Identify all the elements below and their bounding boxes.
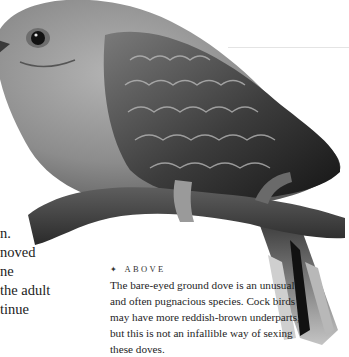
caption-line: The bare-eyed ground dove is an unusual (110, 277, 345, 293)
caption-body: The bare-eyed ground dove is an unusual … (110, 277, 345, 357)
caption-line: may have more reddish-brown underparts, (110, 309, 345, 325)
caption-label: ✦ ABOVE (110, 264, 345, 274)
caption-line: these doves. (110, 341, 345, 357)
body-text-line: ne (0, 262, 14, 281)
body-text-line: n. (0, 224, 11, 243)
body-text-line: the adult (0, 281, 50, 300)
body-text-line: tinue (0, 300, 29, 319)
photo-caption: ✦ ABOVE The bare-eyed ground dove is an … (110, 264, 345, 357)
eye (31, 31, 45, 45)
body-text-line: noved (0, 243, 35, 262)
four-point-star-icon: ✦ (110, 265, 119, 274)
caption-line: and often pugnacious species. Cock birds (110, 293, 345, 309)
caption-label-text: ABOVE (124, 264, 165, 274)
caption-line: but this is not an infallible way of sex… (110, 325, 345, 341)
